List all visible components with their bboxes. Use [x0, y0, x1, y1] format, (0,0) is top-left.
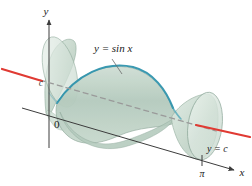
c-intercept-label: c	[39, 77, 44, 88]
curve-equation-label: y = sin x	[93, 42, 132, 54]
origin-label: 0	[54, 118, 60, 130]
x-axis-label: x	[239, 166, 245, 178]
figure-container: y x 0 c π y = sin x y = c	[0, 0, 252, 186]
solid-of-revolution-figure: y x 0 c π y = sin x y = c	[0, 0, 252, 186]
line-equation-label: y = c	[206, 143, 228, 154]
red-line-left-segment	[2, 69, 42, 81]
y-axis-label: y	[43, 5, 49, 17]
pi-tick-label: π	[199, 168, 205, 179]
